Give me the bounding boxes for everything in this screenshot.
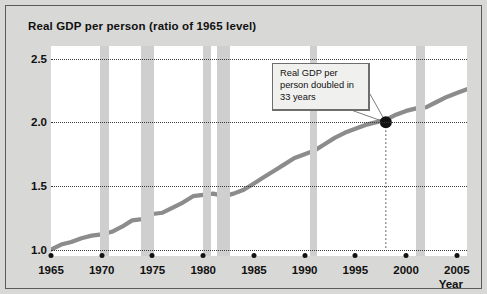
- x-tick-label: 2005: [444, 264, 470, 276]
- x-tick-marker: [353, 253, 358, 258]
- y-tick-label: 2.0: [5, 116, 47, 128]
- grid-line: [51, 186, 467, 187]
- recession-band: [141, 46, 154, 256]
- recession-band: [203, 46, 211, 256]
- gdp-line-chart: [51, 46, 467, 256]
- x-tick-marker: [454, 253, 459, 258]
- grid-line: [51, 59, 467, 60]
- chart-figure: Real GDP per person (ratio of 1965 level…: [0, 0, 487, 294]
- x-tick-marker: [251, 253, 256, 258]
- x-tick-label: 1995: [343, 264, 369, 276]
- x-tick-marker: [99, 253, 104, 258]
- x-tick-marker: [404, 253, 409, 258]
- x-tick-label: 1965: [38, 264, 64, 276]
- x-axis-label: Year: [439, 278, 463, 290]
- y-axis-ticks: 1.01.52.02.5: [6, 46, 47, 256]
- recession-band: [217, 46, 229, 256]
- recession-band: [416, 46, 425, 256]
- x-tick-label: 1990: [292, 264, 318, 276]
- y-tick-label: 1.5: [5, 180, 47, 192]
- x-tick-label: 1975: [140, 264, 166, 276]
- x-tick-marker: [150, 253, 155, 258]
- x-tick-marker: [201, 253, 206, 258]
- x-tick-label: 2000: [393, 264, 419, 276]
- chart-title: Real GDP per person (ratio of 1965 level…: [28, 20, 256, 32]
- grid-line: [51, 122, 467, 123]
- x-axis-ticks: 196519701975198019851990199520002005: [51, 256, 467, 294]
- y-tick-label: 1.0: [5, 244, 47, 256]
- x-tick-marker: [49, 253, 54, 258]
- y-tick-label: 2.5: [5, 53, 47, 65]
- x-tick-label: 1980: [190, 264, 216, 276]
- plot-area: [51, 46, 467, 256]
- recession-band: [100, 46, 109, 256]
- gdp-line: [51, 89, 467, 249]
- x-tick-label: 1970: [89, 264, 115, 276]
- x-tick-label: 1985: [241, 264, 267, 276]
- x-tick-marker: [302, 253, 307, 258]
- grid-line: [51, 250, 467, 251]
- chart-frame: Real GDP per person (ratio of 1965 level…: [5, 5, 482, 289]
- annotation-callout: Real GDP per person doubled in 33 years: [272, 63, 370, 111]
